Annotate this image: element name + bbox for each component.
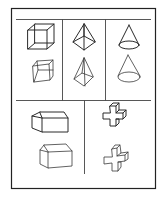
house-model-icon: [32, 112, 68, 132]
house-copy-icon: [40, 144, 72, 168]
cross-model-icon: [103, 103, 126, 126]
cube-model-icon: [28, 24, 54, 49]
cone-model-icon: [119, 25, 139, 49]
cross-copy-icon: [104, 145, 128, 171]
cone-copy-icon: [118, 55, 140, 82]
sheet-canvas: [0, 0, 168, 199]
pyramid-copy-icon: [74, 58, 93, 86]
drawing-test-sheet: [0, 0, 168, 199]
pyramid-model-icon: [73, 24, 95, 50]
cube-copy-icon: [33, 60, 53, 82]
